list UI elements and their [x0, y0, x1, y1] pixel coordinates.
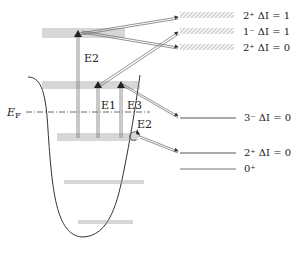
- state-hatch-2: [180, 28, 234, 34]
- upper-state-3-label: 2⁺ ΔI = 0: [243, 42, 290, 53]
- upper-state-2-label: 1⁻ ΔI = 1: [243, 26, 290, 37]
- energy-level-diagram: EF E2 E1 E3 E2: [0, 0, 303, 256]
- label-e2-lower: E2: [137, 118, 152, 131]
- label-e3: E3: [127, 99, 142, 112]
- label-e1: E1: [101, 99, 116, 112]
- lower-shell-levels: [57, 134, 138, 140]
- deep-shell-levels-2: [78, 221, 133, 223]
- upper-state-1-label: 2⁺ ΔI = 1: [243, 10, 290, 21]
- deep-shell-levels-1: [64, 181, 144, 183]
- state-hatch-1: [180, 12, 234, 18]
- potential-well: [28, 75, 140, 237]
- lower-state-1-label: 3⁻ ΔI = 0: [244, 112, 291, 123]
- state-hatch-3: [180, 44, 234, 50]
- lower-state-2-label: 2⁺ ΔI = 0: [244, 147, 291, 158]
- lower-state-3-label: 0⁺: [244, 163, 256, 174]
- label-e2-upper: E2: [84, 52, 99, 65]
- fermi-label: EF: [6, 106, 21, 120]
